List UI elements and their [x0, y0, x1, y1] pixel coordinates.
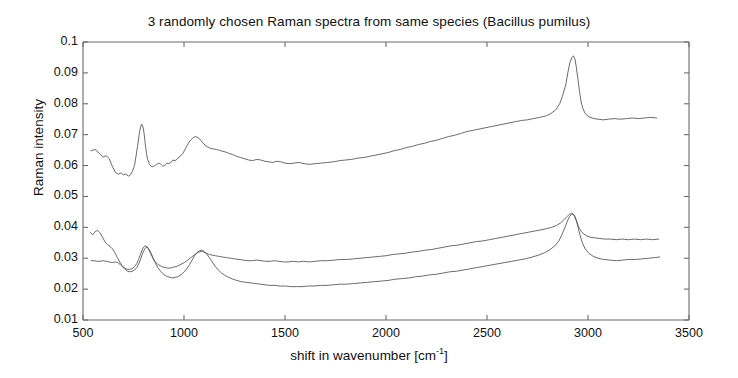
raman-spectra-figure: 3 randomly chosen Raman spectra from sam…: [0, 0, 738, 378]
axes-frame: [83, 42, 689, 320]
spectra-curves: [90, 56, 660, 287]
plot-canvas: [0, 0, 738, 378]
spectrum-line-spectrum-1: [91, 56, 657, 176]
spectrum-line-spectrum-2: [90, 213, 659, 269]
spectrum-line-spectrum-3: [91, 214, 660, 287]
